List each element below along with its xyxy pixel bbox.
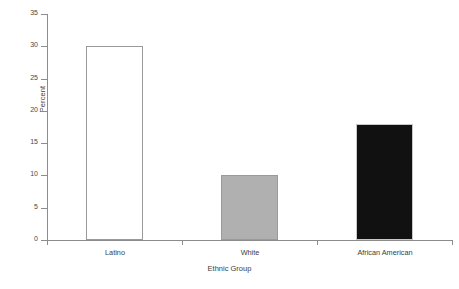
y-tick-5: 5 [41, 208, 47, 209]
x-tick [47, 240, 48, 245]
y-tick-30: 30 [41, 46, 47, 47]
y-tick-label: 25 [30, 74, 38, 81]
plot-area: 05101520253035 [47, 14, 452, 240]
y-tick-label: 35 [30, 9, 38, 16]
y-tick-label: 10 [30, 170, 38, 177]
caption-fragment [26, 282, 436, 286]
category-label-white: White [241, 248, 260, 257]
y-axis-line [47, 14, 48, 240]
y-tick-label: 20 [30, 106, 38, 113]
category-label-african-american: African American [357, 248, 412, 257]
bar-latino [86, 46, 143, 240]
bar-white [221, 175, 278, 240]
category-label-latino: Latino [105, 248, 125, 257]
bar-chart-figure: Percent 05101520253035 LatinoWhiteAfrica… [0, 0, 459, 289]
y-tick-label: 0 [34, 235, 38, 242]
y-tick-25: 25 [41, 79, 47, 80]
y-tick-label: 5 [34, 203, 38, 210]
y-tick-15: 15 [41, 143, 47, 144]
y-tick-10: 10 [41, 175, 47, 176]
y-tick-35: 35 [41, 14, 47, 15]
x-tick [317, 240, 318, 245]
x-axis-line [47, 240, 452, 241]
y-tick-label: 15 [30, 138, 38, 145]
x-tick [182, 240, 183, 245]
bar-african-american [356, 124, 413, 240]
y-tick-20: 20 [41, 111, 47, 112]
x-axis-title: Ethnic Group [0, 264, 459, 273]
y-tick-label: 30 [30, 41, 38, 48]
x-tick [452, 240, 453, 245]
